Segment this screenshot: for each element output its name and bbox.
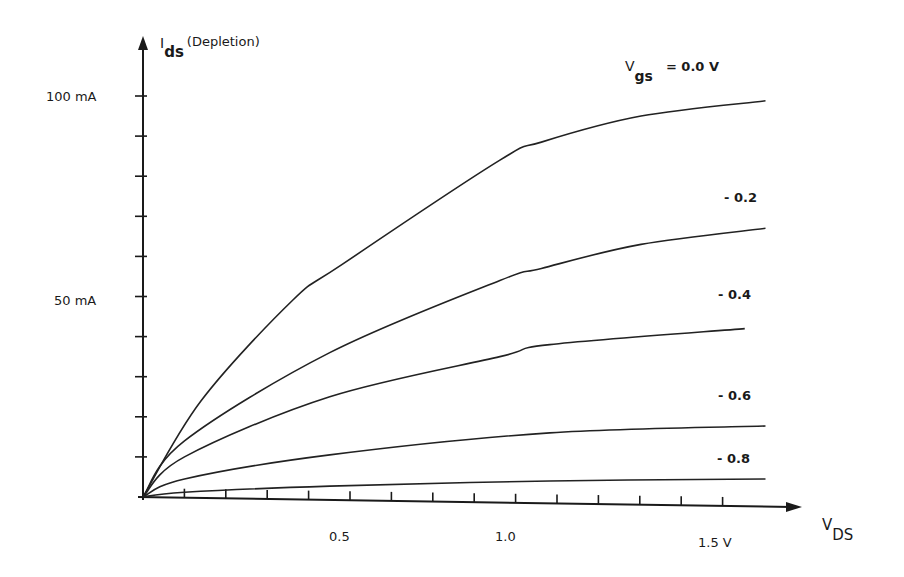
x-tick-label-1.5: 1.5 V [698, 535, 732, 550]
vgs-header-main: V [625, 58, 635, 74]
curves [143, 101, 766, 497]
vgs-header-suffix: = 0.0 V [666, 59, 719, 74]
vgs-header-label: Vgs= 0.0 V [625, 58, 719, 84]
curve-vgs-minus-0.4 [143, 329, 745, 497]
x-tick-label-1.0: 1.0 [495, 529, 516, 544]
x-axis-arrow-icon [786, 502, 802, 512]
x-axis-title-sub: DS [832, 526, 853, 544]
x-axis-ticks [184, 489, 722, 506]
y-axis-title: Ids(Depletion) [160, 34, 260, 61]
curve-label-minus-0.8: - 0.8 [717, 451, 750, 466]
curve-vgs-minus-0.6 [143, 426, 766, 497]
y-tick-label-100: 100 mA [46, 89, 97, 104]
curve-label-minus-0.6: - 0.6 [718, 388, 751, 403]
curve-vgs-minus-0.2 [143, 228, 766, 497]
curve-vgs-minus-0.8 [143, 479, 766, 497]
curve-label-minus-0.2: - 0.2 [724, 190, 757, 205]
y-axis-title-suffix: (Depletion) [187, 34, 260, 49]
y-axis-arrow-icon [138, 36, 148, 50]
iv-characteristic-chart: Ids(Depletion) 100 mA 50 mA 0.5 1.0 1.5 … [0, 0, 904, 577]
x-axis [138, 497, 792, 507]
y-axis-ticks [135, 96, 147, 457]
y-axis-title-sub: ds [164, 43, 184, 61]
curve-label-minus-0.4: - 0.4 [718, 287, 751, 302]
y-tick-label-50: 50 mA [54, 293, 96, 308]
x-axis-title: VDS [822, 516, 853, 544]
vgs-header-sub: gs [635, 68, 653, 84]
x-tick-label-0.5: 0.5 [329, 529, 350, 544]
